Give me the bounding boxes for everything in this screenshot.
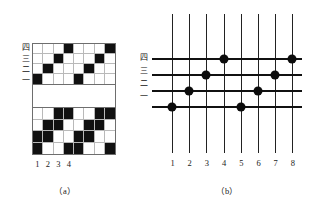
heddle-dot-s一-c5 [236,103,245,112]
grid-cell-empty [64,64,74,74]
heddle-dot-s一-c1 [168,103,177,112]
warp-line-7 [275,14,276,153]
column-number-a-4: 4 [67,159,71,170]
grid-cell-filled [64,143,74,155]
grid-cell-filled [84,64,94,74]
panel-b: 四 三 二 一 12345678 [150,0,315,214]
shaft-label-group-a: 四 三 二 一 [19,43,32,85]
column-number-a-2: 2 [46,159,50,170]
grid-cell-empty [84,143,94,155]
shaft-label-b-1: 一 [140,92,148,101]
grid-cell-empty [105,131,115,143]
heddle-dot-s二-c6 [254,87,263,96]
grid-cell-filled [105,44,115,54]
grid-cell-empty [33,44,43,54]
grid-cell-filled [105,143,115,155]
heddle-dot-s三-c3 [202,71,211,80]
column-number-b-7: 7 [274,158,278,169]
grid-cell-filled [95,54,105,64]
grid-cell-empty [64,74,74,84]
warp-line-4 [224,14,225,153]
grid-cell-empty [64,120,74,132]
grid-cell-empty [54,74,64,84]
column-number-b-1: 1 [170,158,174,169]
grid-cell-filled [54,108,64,120]
caption-b: （b） [216,186,238,197]
grid-cell-empty [84,74,94,84]
shaft-label-b-3: 三 [140,66,148,75]
grid-cell-empty [74,44,84,54]
column-number-b-8: 8 [291,158,295,169]
shaft-label-a-2: 二 [22,65,30,74]
grid-cell-empty [95,131,105,143]
grid-cell-empty [54,131,64,143]
warp-line-2 [189,14,190,153]
column-number-b-4: 4 [222,158,226,169]
shaft-line-二 [152,90,302,92]
grid-cell-filled [64,44,74,54]
grid-cell-empty [33,108,43,120]
heddle-dot-s四-c4 [219,55,228,64]
grid-cell-filled [33,74,43,84]
grid-cell-empty [105,120,115,132]
shaft-label-a-1: 一 [22,76,30,85]
grid-cell-empty [74,54,84,64]
grid-cell-empty [43,44,53,54]
grid-cell-empty [74,108,84,120]
grid-cell-empty [95,44,105,54]
grid-cell-empty [43,108,53,120]
threading-grid [32,43,116,85]
heddle-dot-s二-c2 [185,87,194,96]
grid-cell-filled [95,120,105,132]
grid-cell-filled [84,120,94,132]
grid-cell-filled [43,64,53,74]
grid-cell-empty [54,44,64,54]
grid-cell-empty [105,64,115,74]
figure-root: 四 三 二 一 1 2 3 4 （a） 四 三 二 一 12345678 （b） [0,0,315,214]
grid-cell-filled [105,108,115,120]
grid-cell-empty [105,54,115,64]
grid-cell-empty [43,54,53,64]
grid-cell-filled [64,108,74,120]
column-number-b-5: 5 [239,158,243,169]
grid-cell-filled [74,143,84,155]
caption-a: （a） [54,186,76,197]
grid-cell-empty [64,54,74,64]
grid-cell-empty [105,74,115,84]
grid-cell-empty [43,143,53,155]
column-number-b-2: 2 [188,158,192,169]
heddle-dot-s四-c8 [288,55,297,64]
grid-cell-filled [43,131,53,143]
grid-cell-filled [54,54,64,64]
grid-cell-empty [84,44,94,54]
column-number-a-1: 1 [35,159,39,170]
shaft-label-a-3: 三 [22,54,30,63]
grid-cell-empty [64,131,74,143]
grid-cell-empty [74,120,84,132]
warp-line-1 [172,14,173,153]
grid-separator-band [32,85,116,107]
column-number-a-3: 3 [56,159,60,170]
warp-line-3 [206,14,207,153]
grid-cell-empty [95,74,105,84]
grid-cell-empty [54,64,64,74]
grid-cell-empty [74,64,84,74]
grid-cell-filled [84,131,94,143]
column-number-axis-b: 12345678 [150,158,315,170]
warp-line-8 [292,14,293,153]
shaft-label-a-4: 四 [22,43,30,52]
grid-cell-empty [43,74,53,84]
shaft-label-b-2: 二 [140,79,148,88]
warp-line-5 [241,14,242,153]
drawdown-grid [32,107,116,155]
column-number-b-6: 6 [256,158,260,169]
grid-cell-filled [54,120,64,132]
grid-cell-filled [33,143,43,155]
grid-cell-empty [33,64,43,74]
grid-cell-filled [33,131,43,143]
shaft-label-b-4: 四 [140,53,148,62]
grid-cell-filled [43,120,53,132]
grid-cell-empty [84,54,94,64]
grid-cell-filled [74,74,84,84]
lattice-diagram [150,0,315,214]
